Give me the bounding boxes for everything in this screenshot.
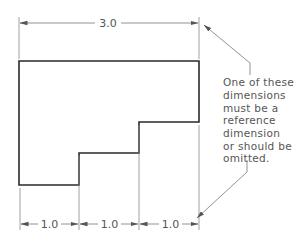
note-line-7: omitted. [223, 152, 270, 164]
bottom-dimension-2: 1.0 [80, 218, 138, 231]
note-line-5: dimension [223, 127, 280, 139]
note-line-4: reference [223, 114, 276, 126]
leader-line-top [204, 25, 250, 75]
note-line-2: dimensions [223, 89, 286, 101]
part-outline [19, 61, 199, 185]
overall-dimension-label: 3.0 [99, 17, 117, 30]
leader-line-bottom [197, 160, 247, 218]
note-line-6: or should be [223, 140, 292, 152]
bottom-dimension-3-label: 1.0 [162, 218, 180, 231]
overall-dimension: 3.0 [20, 17, 198, 30]
reference-note: One of these dimensions must be a refere… [223, 76, 294, 164]
bottom-dimension-3: 1.0 [140, 218, 198, 231]
bottom-dimension-1-label: 1.0 [41, 218, 59, 231]
technical-drawing: 3.0 1.0 1.0 1.0 One of these dimensions … [0, 0, 303, 245]
bottom-dimension-1: 1.0 [21, 218, 78, 231]
note-line-1: One of these [223, 76, 294, 88]
bottom-dimension-2-label: 1.0 [101, 218, 119, 231]
note-line-3: must be a [223, 102, 278, 114]
